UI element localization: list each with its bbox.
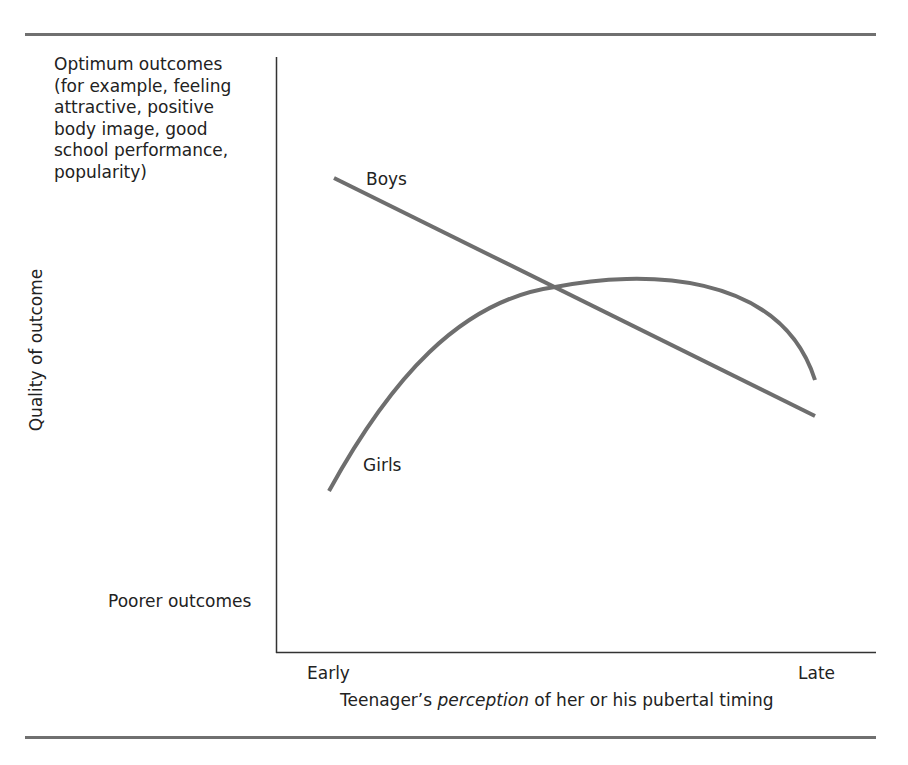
plot-area (0, 0, 908, 765)
x-title-italic: perception (438, 690, 529, 710)
x-tick-early: Early (307, 663, 350, 683)
bottom-rule (25, 736, 876, 739)
x-title-suffix: of her or his pubertal timing (529, 690, 774, 710)
boys-label: Boys (366, 169, 407, 189)
x-title-prefix: Teenager’s (340, 690, 438, 710)
girls-label: Girls (363, 455, 401, 475)
x-tick-late: Late (798, 663, 835, 683)
girls-series-curve (329, 279, 815, 491)
x-axis-title: Teenager’s perception of her or his pube… (340, 690, 774, 710)
